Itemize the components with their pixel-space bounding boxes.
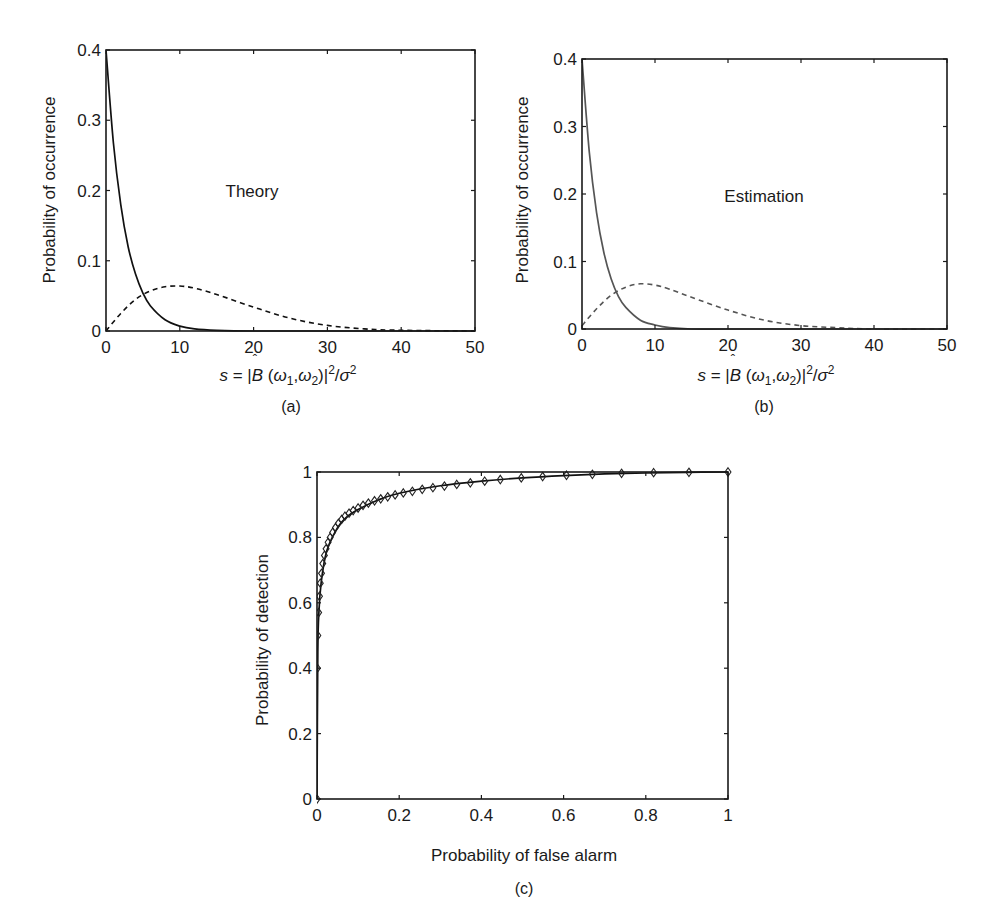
x-tick-label: 50 [466,338,485,357]
ticks: 00.20.40.60.8100.20.40.60.81 [288,463,732,825]
svg-text:s = |B (ω1,ω2)|2/σ2: s = |B (ω1,ω2)|2/σ2 [219,363,356,388]
svg-text:s = |B (ω1,ω2)|2/σ2: s = |B (ω1,ω2)|2/σ2 [697,363,834,388]
y-tick-label: 0.4 [77,41,101,60]
plot-a: 0102030405000.10.20.30.4 [77,41,484,357]
x-tick-label: 0.4 [470,806,494,825]
x-tick-label: 40 [392,338,411,357]
y-tick-label: 0.6 [288,594,312,613]
solid-curve [317,472,728,799]
panel-label-a: (a) [281,398,301,415]
x-axis-label-c: Probability of false alarm [431,846,617,865]
y-tick-label: 0.1 [553,253,577,272]
x-tick-label: 50 [938,336,957,355]
y-tick-label: 0.2 [553,185,577,204]
y-tick-label: 0.3 [77,111,101,130]
panel-label-b: (b) [754,398,774,415]
x-tick-label: 30 [318,338,337,357]
y-tick-label: 0 [92,322,101,341]
chart-panel-c: 00.20.40.60.8100.20.40.60.81 Probability… [0,420,992,918]
x-tick-label: 40 [865,336,884,355]
y-tick-label: 0 [568,320,577,339]
annotation-b: Estimation [724,187,803,206]
x-tick-label: 0.8 [634,806,658,825]
series-group [106,50,475,331]
svg-text:Probability of detection: Probability of detection [253,554,272,726]
y-tick-label: 0.4 [553,50,577,69]
x-tick-label: 0 [577,336,586,355]
y-tick-label: 0.8 [288,528,312,547]
svg-text:Probability of occurrence: Probability of occurrence [40,96,59,283]
y-axis-label-a: Probability of occurrence [40,96,59,283]
x-axis-label-b: s = |B (ω1,ω2)|2/σ2ˆ [697,352,834,388]
y-tick-label: 0.3 [553,118,577,137]
x-tick-label: 0.6 [552,806,576,825]
hat-accent: ˆ [253,352,258,367]
x-tick-label: 10 [646,336,665,355]
svg-text:Probability of occurrence: Probability of occurrence [513,96,532,283]
x-tick-label: 0 [312,806,321,825]
y-tick-label: 0.1 [77,252,101,271]
dashed-curve [106,286,475,331]
x-axis-label-a: s = |B (ω1,ω2)|2/σ2ˆ [219,352,356,388]
y-tick-label: 0.2 [288,725,312,744]
chart-panel-a: 0102030405000.10.20.30.4 Theory Probabil… [0,0,496,420]
chart-panel-b: 0102030405000.10.20.30.4 Estimation Prob… [496,0,992,420]
axes-frame [317,472,728,799]
hat-accent: ˆ [731,352,736,367]
x-tick-label: 10 [170,338,189,357]
x-tick-label: 0 [101,338,110,357]
series-group [314,468,731,803]
y-axis-label-b: Probability of occurrence [513,96,532,283]
axes-frame [106,50,475,331]
x-tick-label: 0.2 [387,806,411,825]
solid-curve [106,50,475,331]
x-tick-label: 30 [792,336,811,355]
dashed-curve [582,284,947,329]
annotation-a: Theory [226,182,279,201]
y-tick-label: 0.2 [77,182,101,201]
plot-c: 00.20.40.60.8100.20.40.60.81 [288,463,732,825]
ticks: 0102030405000.10.20.30.4 [77,41,484,357]
y-tick-label: 1 [303,463,312,482]
y-tick-label: 0 [303,790,312,809]
x-tick-label: 1 [723,806,732,825]
y-tick-label: 0.4 [288,659,312,678]
y-axis-label-c: Probability of detection [253,554,272,726]
panel-label-c: (c) [515,880,534,897]
